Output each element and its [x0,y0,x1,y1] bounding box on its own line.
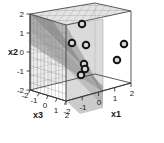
x2-axis-label: x2 [8,47,18,57]
scatter3d-plot-figure: 2 1 0 -1 -2 x2 -2 -1 0 1 2 x3 [0,0,164,143]
data-point-marker [121,41,128,48]
x3-tick-label-0: 0 [43,101,48,110]
x3-tick-label-m2: -2 [21,91,29,100]
x2-tick-label-0: 0 [20,48,25,57]
x1-tick-label-2: 2 [130,89,135,98]
data-point-marker [69,40,76,47]
x1-tick-label-m1: -1 [79,103,87,112]
x3-tick-label-m1: -1 [30,96,38,105]
x2-tick-label-2: 2 [20,10,25,19]
x1-tick-label-m2: -2 [63,107,71,116]
data-point-marker [114,57,121,64]
x1-axis-label: x1 [111,109,121,119]
x1-tick-label-0: 0 [97,98,102,107]
x2-axis: 2 1 0 -1 -2 x2 [8,10,30,95]
data-point-marker [78,72,85,79]
x3-axis-label: x3 [33,110,43,120]
x3-tick-label-1: 1 [54,106,59,115]
plot-canvas: 2 1 0 -1 -2 x2 -2 -1 0 1 2 x3 [0,0,164,143]
data-point-marker [79,21,86,28]
x1-tick-label-1: 1 [113,94,118,103]
data-point-marker [83,42,90,49]
x2-tick-label-m1: -1 [17,67,25,76]
x2-tick-label-1: 1 [20,29,25,38]
